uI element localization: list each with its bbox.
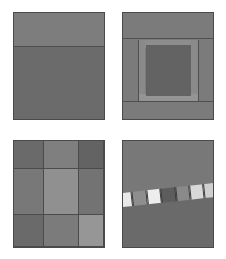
panel-top-right <box>122 12 214 120</box>
grid-cell-r1-c2 <box>79 169 104 216</box>
region-header-divider <box>123 38 213 39</box>
panel-top-left-content <box>14 13 104 119</box>
strip-segment-2 <box>146 188 162 203</box>
region-frame-left-pillar <box>138 40 145 101</box>
grid-cell-r0-c0 <box>14 141 44 169</box>
region-frame-right-edge <box>198 40 199 101</box>
region-frame-right-pillar <box>191 40 198 101</box>
panel-top-right-content <box>123 13 213 119</box>
grid-cell-r2-c0 <box>14 215 44 247</box>
strip-segment-5 <box>189 184 205 199</box>
strip-segment-6 <box>203 182 213 197</box>
region-frame-left-edge <box>138 40 139 101</box>
strip-segment-1 <box>131 190 147 205</box>
region-bottom-band <box>123 102 213 119</box>
grid-cell-r0-c2 <box>79 141 104 169</box>
grid-cell-r2-c2 <box>79 215 104 247</box>
region-inner-core <box>146 45 191 96</box>
panel-bottom-right <box>122 140 214 248</box>
grid-cell-r0-c1 <box>44 141 79 169</box>
grid-cell-r2-c1 <box>44 215 79 247</box>
region-top-header-band <box>123 13 213 38</box>
panel-bottom-left <box>13 140 105 248</box>
region-upper-band <box>14 13 104 46</box>
strip-segment-3 <box>160 187 176 202</box>
region-lower-band <box>14 46 104 119</box>
panel-top-left <box>13 12 105 120</box>
tonal-grid <box>14 141 104 247</box>
region-divider-line <box>14 46 104 47</box>
strip-segment-4 <box>174 185 190 200</box>
grid-cell-r1-c1 <box>44 169 79 216</box>
region-footer-divider <box>123 101 213 102</box>
grid-cell-r1-c0 <box>14 169 44 216</box>
panel-bottom-right-content <box>123 141 213 247</box>
figure-canvas <box>0 0 226 259</box>
